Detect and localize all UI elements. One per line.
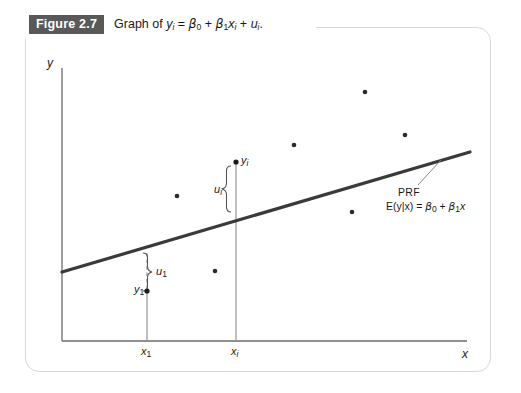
brace-u1 [143, 253, 152, 291]
scatter-point [175, 194, 180, 199]
annotation-ui: ui [214, 184, 222, 197]
prf-eq-lead: E(y|x) = [386, 200, 425, 212]
prf-equation: E(y|x) = β0 + β1x [386, 201, 465, 214]
y1-sub: 1 [140, 287, 145, 297]
u1-sub: 1 [162, 269, 167, 279]
scatter-point [363, 90, 368, 95]
scatter-plot: y x x1 xi yi ui u1 y1 PRF E(y|x) = β0 + … [0, 0, 521, 393]
tick-xi-sub: i [237, 349, 239, 359]
scatter-point [213, 269, 218, 274]
prf-label: PRF [398, 187, 420, 198]
brace-ui [222, 166, 231, 212]
x-tick-label-x1: x1 [141, 346, 151, 359]
observation-point-y1 [144, 288, 149, 293]
ui-sub: i [220, 187, 222, 197]
plot-svg [0, 0, 521, 393]
tick-x1-sub: 1 [147, 349, 152, 359]
scatter-point [292, 143, 297, 148]
observation-point-yi [233, 159, 238, 164]
annotation-u1: u1 [156, 266, 167, 279]
scatter-point [403, 133, 408, 138]
y-axis-label: y [47, 57, 53, 69]
annotation-yi: yi [241, 155, 248, 168]
annotation-y1: y1 [134, 284, 144, 297]
x-tick-label-xi: xi [231, 346, 238, 359]
prf-beta0: β [425, 200, 432, 212]
prf-plus: + [437, 200, 449, 212]
prf-x: x [460, 200, 465, 212]
scatter-point [350, 210, 355, 215]
yi-sub: i [247, 158, 249, 168]
x-axis-label: x [462, 348, 468, 360]
